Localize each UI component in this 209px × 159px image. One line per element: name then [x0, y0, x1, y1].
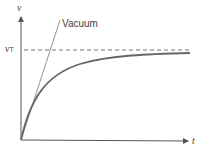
diagram-canvas	[0, 0, 209, 159]
x-axis	[21, 140, 188, 141]
y-axis-label: v	[17, 3, 21, 13]
terminal-velocity-label: vT	[5, 44, 14, 54]
x-axis-label: t	[192, 136, 195, 146]
vacuum-label: Vacuum	[62, 19, 98, 29]
velocity-curve	[21, 53, 190, 140]
vacuum-line	[21, 20, 60, 140]
